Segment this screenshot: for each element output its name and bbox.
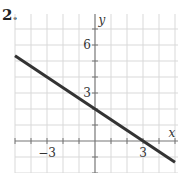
y-axis-label: y: [98, 13, 106, 27]
y-tick-label: 3: [83, 86, 91, 100]
x-tick-label: −3: [38, 146, 56, 160]
x-tick-label: 3: [139, 146, 147, 160]
x-axis-label: x: [169, 126, 176, 140]
y-tick-label: 6: [83, 38, 91, 52]
coordinate-plane: −3336xy: [0, 0, 178, 173]
